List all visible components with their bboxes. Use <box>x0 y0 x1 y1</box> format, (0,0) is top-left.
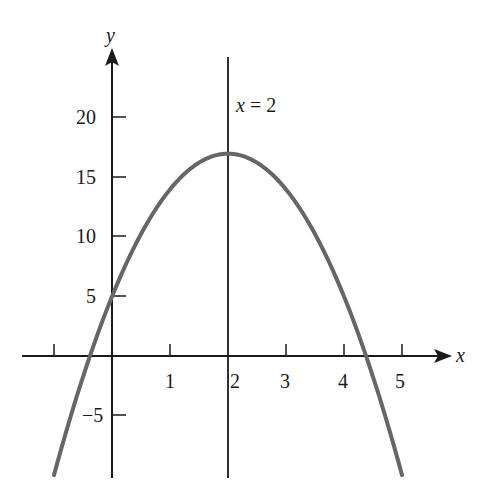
x-tick-label-1: 1 <box>165 370 175 392</box>
x-tick-label-3: 3 <box>280 370 290 392</box>
y-tick-label-10: 10 <box>76 225 96 247</box>
y-tick-label-neg5: −5 <box>82 404 103 426</box>
x-axis-label: x <box>455 344 465 366</box>
x-tick-label-5: 5 <box>395 370 405 392</box>
x-tick-label-2: 2 <box>230 370 240 392</box>
y-tick-label-5: 5 <box>86 285 96 307</box>
y-tick-label-15: 15 <box>76 166 96 188</box>
y-tick-label-20: 20 <box>76 106 96 128</box>
y-axis-label: y <box>104 24 115 47</box>
parabola-chart: x y 1 2 3 4 5 20 15 10 5 −5 x = 2 <box>0 0 492 501</box>
x-tick-label-4: 4 <box>338 370 348 392</box>
axis-of-symmetry-label: x = 2 <box>235 94 276 116</box>
